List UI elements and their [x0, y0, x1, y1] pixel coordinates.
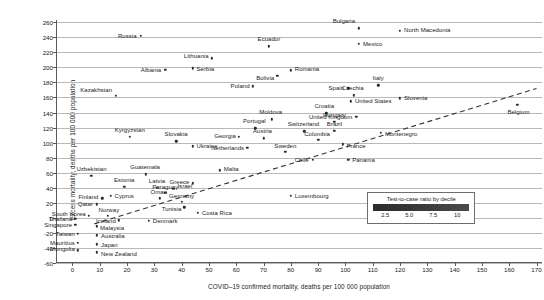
- trend-line: [56, 20, 542, 263]
- x-tick-label: 90: [315, 266, 322, 273]
- legend-tick-label: 7.5: [429, 212, 437, 218]
- x-tick-mark: [482, 263, 483, 266]
- y-tick-label: 180: [43, 79, 53, 86]
- data-point-label: Japan: [101, 242, 118, 248]
- data-point-label: Ecuador: [258, 36, 281, 42]
- x-tick-label: 50: [205, 266, 212, 273]
- y-tick-label: 200: [43, 64, 53, 71]
- x-tick-label: 150: [477, 266, 487, 273]
- y-tick-label: -60: [44, 260, 53, 267]
- data-point-label: New Zealand: [101, 251, 137, 257]
- data-point-label: Mongolia: [50, 246, 75, 252]
- y-tick-label: 100: [43, 139, 53, 146]
- data-point-label: Australia: [101, 233, 125, 239]
- scatter-chart: Excess mortality, deaths per 100 000 pop…: [0, 0, 544, 300]
- data-point-label: Mexico: [363, 41, 382, 47]
- y-tick-label: 40: [46, 184, 53, 191]
- data-point-label: Bolivia: [256, 75, 274, 81]
- data-point-label: Montenegro: [385, 131, 418, 137]
- data-point-label: Germany: [169, 193, 194, 199]
- legend-tick-labels: 2.55.07.510: [373, 212, 469, 221]
- x-tick-mark: [154, 263, 155, 266]
- data-point-label: Malta: [224, 166, 239, 172]
- x-tick-label: 130: [422, 266, 432, 273]
- x-tick-label: 70: [260, 266, 267, 273]
- data-point-label: Latvia: [149, 178, 165, 184]
- x-tick-label: 80: [287, 266, 294, 273]
- legend-gradient-bar: [373, 204, 469, 211]
- data-point-label: Sweden: [274, 143, 296, 149]
- x-tick-mark: [236, 263, 237, 266]
- y-tick-label: -20: [44, 229, 53, 236]
- y-tick-label: 120: [43, 124, 53, 131]
- legend-title: Test-to-case ratio by decile: [373, 196, 469, 202]
- data-point-label: Lithuania: [184, 53, 209, 59]
- data-point-label: Portugal: [243, 118, 266, 124]
- data-point-label: Cyprus: [115, 193, 134, 199]
- x-tick-mark: [100, 263, 101, 266]
- data-point-label: Bulgaria: [333, 18, 355, 24]
- x-tick-mark: [127, 263, 128, 266]
- data-point-label: Netherlands: [211, 145, 244, 151]
- data-point-label: Chile: [295, 157, 309, 163]
- data-point-label: Luxembourg: [295, 193, 329, 199]
- data-point-label: Kazakhstan: [80, 87, 112, 93]
- data-point-label: Moldova: [259, 109, 282, 115]
- legend-tick-label: 10: [454, 212, 460, 218]
- y-tick-label: 240: [43, 34, 53, 41]
- x-tick-label: 60: [233, 266, 240, 273]
- data-point-label: Costa Rica: [202, 210, 232, 216]
- data-point-label: Mauritius: [50, 240, 75, 246]
- legend-tick-label: 2.5: [381, 212, 389, 218]
- x-tick-label: 20: [124, 266, 131, 273]
- x-tick-label: 140: [449, 266, 459, 273]
- data-point-label: Italy: [373, 75, 384, 81]
- data-point-label: Panama: [352, 157, 375, 163]
- data-point-label: Norway: [99, 207, 120, 213]
- data-point-label: Estonia: [114, 177, 134, 183]
- data-point-label: North Macedonia: [404, 27, 450, 33]
- x-tick-label: 0: [71, 266, 74, 273]
- data-point-label: Malaysia: [100, 225, 124, 231]
- x-tick-label: 160: [504, 266, 514, 273]
- data-point-label: Qatar: [78, 201, 93, 207]
- x-tick-mark: [291, 263, 292, 266]
- data-point-label: Iceland: [96, 218, 116, 224]
- data-point-label: Denmark: [153, 218, 178, 224]
- data-point-label: Hungary: [323, 112, 346, 118]
- x-tick-mark: [427, 263, 428, 266]
- legend-tick-label: 5.0: [405, 212, 413, 218]
- data-point-label: Tunisia: [162, 206, 181, 212]
- data-point-label: Switzerland: [288, 121, 320, 127]
- x-tick-mark: [373, 263, 374, 266]
- data-point-label: Singapore: [44, 222, 72, 228]
- x-tick-mark: [318, 263, 319, 266]
- x-tick-mark: [264, 263, 265, 266]
- x-axis-label: COVID–19 confirmed mortality, deaths per…: [56, 283, 542, 290]
- legend: Test-to-case ratio by decile 2.55.07.510: [367, 192, 475, 224]
- data-point-label: Guatemala: [130, 164, 160, 170]
- x-tick-mark: [509, 263, 510, 266]
- x-tick-label: 120: [395, 266, 405, 273]
- data-point-label: Finland: [78, 194, 98, 200]
- data-point-label: Russia: [118, 33, 137, 39]
- data-point-label: Belgium: [507, 109, 529, 115]
- data-point-label: Albania: [141, 67, 161, 73]
- data-point-label: Czechia: [342, 85, 364, 91]
- y-tick-label: 220: [43, 49, 53, 56]
- y-tick-label: 20: [46, 199, 53, 206]
- y-tick-label: 260: [43, 19, 53, 26]
- x-tick-label: 110: [368, 266, 378, 273]
- x-tick-mark: [537, 263, 538, 266]
- data-point-label: Romania: [295, 66, 319, 72]
- x-tick-mark: [72, 263, 73, 266]
- data-point-label: France: [347, 143, 366, 149]
- y-tick-mark: [53, 263, 56, 264]
- data-point-label: Serbia: [197, 66, 215, 72]
- x-tick-mark: [182, 263, 183, 266]
- data-point-label: Brazil: [327, 121, 342, 127]
- data-point-label: Georgia: [214, 133, 236, 139]
- data-point-label: United States: [355, 98, 392, 104]
- data-point-label: Poland: [231, 83, 250, 89]
- data-point-label: Uzbekistan: [76, 166, 106, 172]
